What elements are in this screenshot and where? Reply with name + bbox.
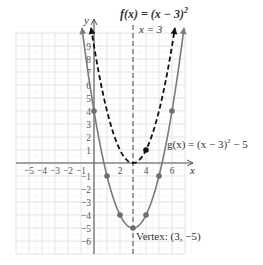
y-tick-label: −2	[81, 185, 91, 195]
f-marked-point	[143, 147, 149, 153]
g-label-tail: − 5	[231, 138, 249, 150]
x-tick-label: −2	[63, 166, 73, 176]
y-tick-label: 2	[86, 133, 91, 143]
g-right-arrow-icon	[180, 28, 186, 34]
x-tick-label: 4	[144, 166, 149, 176]
g-marked-point	[156, 173, 162, 179]
g-function-label: g(x) = (x − 3)2 − 5	[167, 137, 248, 151]
y-tick-label: 1	[86, 146, 91, 156]
g-marked-point	[91, 108, 97, 114]
y-tick-label: −6	[81, 237, 91, 247]
y-axis-label: y	[83, 14, 89, 26]
y-tick-label: −1	[81, 172, 91, 182]
g-marked-point	[104, 173, 110, 179]
g-marked-point	[169, 108, 175, 114]
x-tick-label: −5	[24, 166, 34, 176]
g-marked-point	[130, 225, 136, 231]
x-tick-label: −4	[37, 166, 47, 176]
y-tick-label: 9	[86, 42, 91, 52]
g-left-arrow-icon	[80, 28, 86, 34]
symmetry-axis-label: x = 3	[138, 23, 163, 35]
f-right-arrow-icon	[171, 28, 177, 34]
y-tick-label: 3	[86, 120, 91, 130]
g-label-body: g(x) = (x − 3)	[167, 138, 227, 151]
g-marked-point	[117, 212, 123, 218]
f-function-label: f(x) = (x − 3)2	[120, 6, 188, 21]
y-tick-label: −5	[81, 224, 91, 234]
x-tick-label: 2	[118, 166, 123, 176]
parabola-graph: −5−4−3−2−1246987654321−1−2−3−4−5−6 y x f…	[0, 0, 263, 265]
y-tick-label: −4	[81, 211, 91, 221]
x-tick-label: 6	[170, 166, 175, 176]
grid-lines	[16, 27, 192, 255]
y-tick-label: 5	[86, 94, 91, 104]
f-label-body: = (x − 3)	[138, 7, 184, 21]
x-axis-label: x	[189, 164, 195, 176]
f-label-name: f(x)	[120, 7, 138, 21]
y-tick-label: 4	[86, 107, 91, 117]
vertex-label: Vertex: (3, −5)	[136, 230, 201, 243]
f-label-exponent: 2	[183, 6, 188, 15]
g-marked-point	[143, 212, 149, 218]
x-tick-label: −3	[50, 166, 60, 176]
y-tick-label: −3	[81, 198, 91, 208]
